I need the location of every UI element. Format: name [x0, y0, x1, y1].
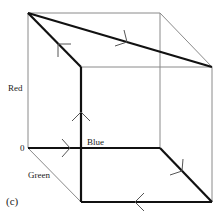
green-axis-label: Green [28, 170, 50, 180]
rgb-cube-diagram: Red Blue Green 0 (c) [0, 0, 219, 216]
arrows [58, 30, 183, 211]
origin-label: 0 [20, 143, 25, 153]
thick-path [28, 13, 212, 202]
red-axis-label: Red [8, 83, 23, 93]
panel-label: (c) [6, 195, 19, 208]
bottom-right-depth-edge [160, 148, 212, 202]
blue-axis-label: Blue [87, 137, 104, 147]
